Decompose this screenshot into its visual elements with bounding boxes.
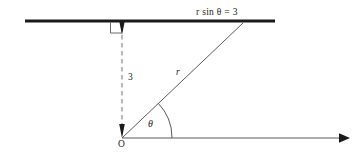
angle-arc-theta [158, 103, 172, 138]
label-height-3: 3 [128, 73, 133, 83]
label-angle-theta: θ [148, 119, 153, 129]
label-origin-o: O [118, 140, 125, 150]
label-equation-r-sin-theta: r sin θ = 3 [196, 8, 238, 18]
polar-axis-arrowhead [339, 133, 350, 143]
figure-canvas [0, 0, 361, 153]
label-radius-r: r [176, 68, 180, 78]
polar-geometry-figure: r sin θ = 3 r 3 θ O [0, 0, 361, 153]
radius-ray [122, 23, 243, 138]
